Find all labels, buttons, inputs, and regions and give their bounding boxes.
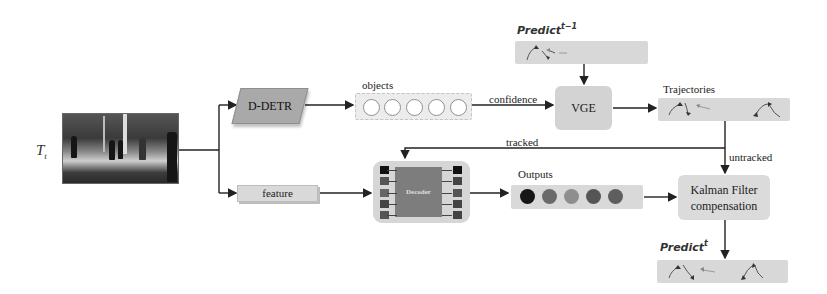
outputs-box: [511, 185, 643, 209]
objects-queries: [355, 93, 472, 120]
kalman-filter-module: Kalman Filter compensation: [678, 175, 770, 220]
predict-prev-label: Predictt−1: [517, 22, 577, 37]
kalman-line2: compensation: [678, 198, 770, 214]
output-token: [586, 189, 601, 204]
output-token: [542, 189, 557, 204]
trajectory-arrows-icon: [658, 98, 790, 121]
object-query: [450, 99, 467, 116]
outputs-label: Outputs: [518, 168, 553, 180]
predict-curr-label: Predictt: [660, 239, 708, 254]
predict-prev-box: [515, 41, 648, 64]
trajectory-arrows-icon: [657, 260, 788, 283]
vge-module: VGE: [555, 86, 612, 130]
input-frame-image: [62, 113, 179, 184]
output-token: [564, 189, 579, 204]
trajectories-box: [658, 98, 790, 121]
d-detr-detector: D-DETR: [232, 88, 309, 124]
input-frame-label: Tt: [36, 142, 47, 161]
object-query: [363, 99, 380, 116]
decoder-core: Decoder: [395, 167, 442, 217]
output-token: [608, 189, 623, 204]
confidence-edge-label: confidence: [489, 93, 537, 105]
feature-box: feature: [237, 185, 318, 202]
kalman-line1: Kalman Filter: [678, 182, 770, 198]
object-query: [406, 99, 423, 116]
trajectory-arrows-icon: [515, 41, 648, 64]
objects-label: objects: [362, 79, 393, 91]
tracked-edge-label: tracked: [506, 136, 538, 148]
untracked-edge-label: untracked: [729, 151, 772, 163]
object-query: [428, 99, 445, 116]
trajectories-label: Trajectories: [663, 83, 715, 95]
output-token: [520, 189, 535, 204]
object-query: [384, 99, 401, 116]
predict-curr-box: [657, 260, 788, 283]
decoder-block: Decoder: [373, 161, 470, 223]
